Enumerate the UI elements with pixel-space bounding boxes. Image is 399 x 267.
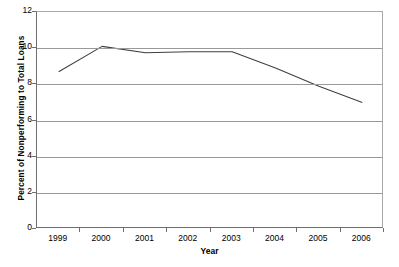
y-axis-tick-mark: [32, 192, 36, 193]
x-axis-tick-mark: [166, 228, 167, 232]
gridline: [37, 48, 382, 49]
x-axis-tick-label: 2005: [296, 233, 340, 244]
y-axis-tick-mark: [32, 120, 36, 121]
y-axis-tick-mark: [32, 47, 36, 48]
x-axis-tick-label: 2004: [253, 233, 297, 244]
y-axis-tick-mark: [32, 83, 36, 84]
y-axis-tick-label: 6: [6, 115, 32, 124]
y-axis-tick-label: 12: [6, 6, 32, 15]
x-axis-tick-labels: 19992000200120022003200420052006: [36, 233, 383, 247]
x-axis-tick-label: 2001: [122, 233, 166, 244]
gridline: [37, 121, 382, 122]
x-axis-tick-mark: [79, 228, 80, 232]
y-axis-tick-label: 10: [6, 42, 32, 51]
y-axis-tick-label: 8: [6, 78, 32, 87]
x-axis-tick-mark: [383, 228, 384, 232]
x-axis-tick-mark: [253, 228, 254, 232]
y-axis-tick-mark: [32, 228, 36, 229]
gridline: [37, 157, 382, 158]
y-axis-tick-mark: [32, 156, 36, 157]
series-line: [59, 46, 363, 102]
x-axis-tick-mark: [296, 228, 297, 232]
gridline: [37, 193, 382, 194]
plot-area: [36, 11, 383, 228]
y-axis-tick-label: 2: [6, 187, 32, 196]
y-axis-tick-mark: [32, 11, 36, 12]
x-axis-tick-mark: [210, 228, 211, 232]
gridline: [37, 84, 382, 85]
x-axis-tick-label: 2002: [166, 233, 210, 244]
x-axis-tick-label: 2003: [209, 233, 253, 244]
y-axis-tick-label: 0: [6, 223, 32, 232]
x-axis-tick-label: 2006: [339, 233, 383, 244]
x-axis-tick-label: 1999: [36, 233, 80, 244]
line-chart: Percent of Nonperforming to Total Loans …: [0, 0, 399, 267]
y-axis-tick-label: 4: [6, 151, 32, 160]
y-axis-tick-labels: 024681012: [0, 0, 32, 267]
x-axis-tick-mark: [340, 228, 341, 232]
x-axis-title: Year: [36, 246, 383, 257]
x-axis-tick-mark: [123, 228, 124, 232]
x-axis-tick-label: 2000: [79, 233, 123, 244]
